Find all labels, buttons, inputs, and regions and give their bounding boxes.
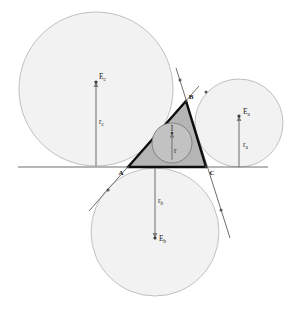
excenter-b-label-sub: b <box>164 238 167 244</box>
excenter-a-dot <box>237 114 240 117</box>
exradius-b-label-sub: b <box>161 200 164 206</box>
vertex-c-dot <box>205 166 208 169</box>
vertex-label-b: B <box>189 93 194 101</box>
tangent-tick-ab <box>107 189 110 192</box>
excenter-b-dot <box>153 236 156 239</box>
excenter-c-dot <box>94 80 97 83</box>
tangent-tick-bc-upper <box>179 79 182 82</box>
vertex-a-dot <box>127 166 130 169</box>
diagram-canvas: A B C I r Ec rc Ea ra rb Eb <box>0 0 290 314</box>
geometry-svg: A B C I r Ec rc Ea ra rb Eb <box>0 0 290 314</box>
tangent-tick-right <box>205 91 208 94</box>
vertex-label-c: C <box>209 169 214 177</box>
vertex-label-a: A <box>118 169 123 177</box>
tangent-tick-bc-lower <box>220 209 223 212</box>
vertex-b-dot <box>185 100 188 103</box>
